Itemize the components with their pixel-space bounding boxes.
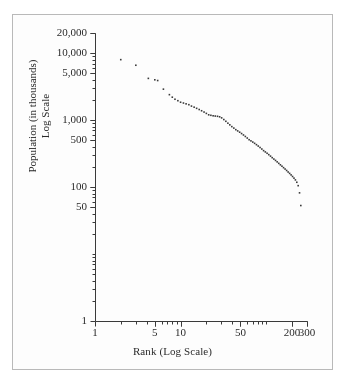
scatter-plot-canvas: [13, 15, 334, 371]
figure-panel: Population (in thousands) Log Scale Rank…: [12, 14, 333, 370]
y-axis-title-line1: Population (in thousands): [26, 46, 39, 186]
x-axis-title: Rank (Log Scale): [13, 345, 332, 357]
y-axis-title: Population (in thousands) Log Scale: [26, 46, 56, 186]
y-axis-title-line2: Log Scale: [39, 46, 52, 186]
